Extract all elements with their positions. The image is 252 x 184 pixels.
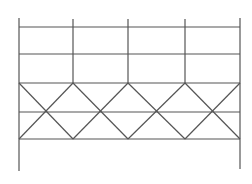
- column-members: [19, 18, 240, 171]
- horizontal-members: [19, 27, 240, 139]
- x-bracing: [19, 83, 240, 139]
- frame-diagram: [0, 0, 252, 184]
